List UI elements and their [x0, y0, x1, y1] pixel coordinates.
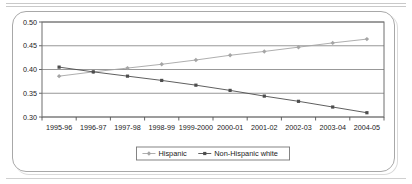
data-point-marker: [194, 58, 198, 62]
x-axis-tick-label: 1999-2000: [179, 123, 213, 132]
y-axis-tick-label: 0.35: [23, 89, 37, 98]
page-rule-bottom: [6, 178, 406, 179]
series-2: [58, 66, 369, 115]
x-axis-tick-label: 2000-01: [217, 123, 243, 132]
data-point-marker: [92, 70, 95, 73]
data-point-marker: [160, 79, 163, 82]
x-axis-tick-label: 1995-96: [46, 123, 72, 132]
x-axis-tick-label: 2002-03: [285, 123, 311, 132]
page-rule-top-1: [6, 3, 406, 4]
data-point-marker: [297, 100, 300, 103]
y-axis-tick-label: 0.45: [23, 41, 37, 50]
data-point-marker: [160, 62, 164, 66]
data-point-marker: [58, 66, 61, 69]
data-point-marker: [331, 105, 334, 108]
series-line: [59, 39, 367, 76]
data-point-marker: [365, 37, 369, 41]
x-axis-tick-label: 2001-02: [251, 123, 277, 132]
data-point-marker: [263, 95, 266, 98]
y-axis-tick-label: 0.50: [23, 18, 37, 27]
chart-canvas: 0.300.350.400.450.501995-961996-971997-9…: [12, 11, 395, 172]
series-1: [57, 37, 369, 78]
x-axis-tick-label: 2004-05: [354, 123, 380, 132]
y-axis-tick-label: 0.40: [23, 65, 37, 74]
page-rule-top-2: [6, 6, 406, 7]
data-point-marker: [229, 89, 232, 92]
figure-container: 0.300.350.400.450.501995-961996-971997-9…: [0, 0, 412, 184]
x-axis-tick-label: 1998-99: [149, 123, 175, 132]
data-point-marker: [262, 49, 266, 53]
data-point-marker: [365, 111, 368, 114]
legend-label: Hispanic: [158, 149, 187, 158]
data-point-marker: [331, 41, 335, 45]
x-axis-tick-label: 1996-97: [80, 123, 106, 132]
data-point-marker: [203, 152, 206, 155]
data-point-marker: [126, 75, 129, 78]
y-axis-tick-label: 0.30: [23, 113, 37, 122]
line-chart: 0.300.350.400.450.501995-961996-971997-9…: [12, 11, 395, 172]
data-point-marker: [194, 84, 197, 87]
x-axis-tick-label: 2003-04: [320, 123, 346, 132]
data-point-marker: [57, 74, 61, 78]
x-axis-tick-label: 1997-98: [114, 123, 140, 132]
data-point-marker: [228, 53, 232, 57]
legend-label: Non-Hispanic white: [214, 149, 278, 158]
series-line: [59, 67, 367, 113]
